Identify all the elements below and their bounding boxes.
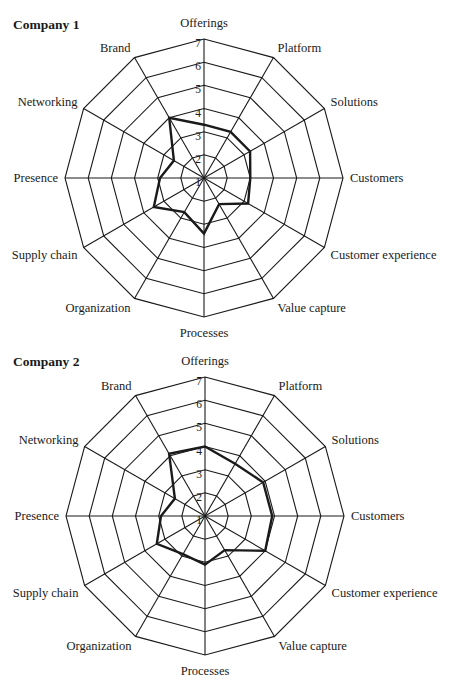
axis-spoke-organization [136,516,206,636]
data-series-polygon [157,447,272,565]
axis-spoke-value-capture [204,178,274,298]
axis-label-processes: Processes [181,664,230,678]
axis-spoke-customer-experience [204,178,324,248]
tick-label-2: 2 [196,491,202,503]
axis-label-solutions: Solutions [332,433,379,447]
tick-label-4: 4 [195,107,201,119]
axis-label-presence: Presence [14,171,59,185]
company-2-panel: Company 2 1234567OfferingsPlatformSoluti… [0,339,449,686]
axis-spoke-organization [135,178,205,298]
axis-label-processes: Processes [180,326,229,340]
axis-label-customer-experience: Customer experience [332,586,438,600]
tick-label-1: 1 [196,514,202,526]
axis-label-networking: Networking [18,95,78,109]
axis-label-value-capture: Value capture [279,639,348,653]
axis-spoke-platform [204,58,274,178]
tick-label-3: 3 [196,468,202,480]
tick-label-2: 2 [195,153,201,165]
tick-label-7: 7 [196,375,202,387]
axis-label-organization: Organization [65,301,131,315]
axis-label-brand: Brand [100,41,131,55]
axis-label-networking: Networking [19,433,79,447]
axis-label-solutions: Solutions [331,95,378,109]
axis-spoke-supply-chain [85,516,205,586]
axis-spoke-networking [84,109,204,179]
axis-spoke-networking [85,447,205,517]
tick-label-7: 7 [195,37,201,49]
axis-label-platform: Platform [278,41,322,55]
company-1-radar-chart: 1234567OfferingsPlatformSolutionsCustome… [0,0,449,340]
tick-label-3: 3 [195,130,201,142]
axis-label-organization: Organization [66,639,132,653]
tick-label-6: 6 [196,398,202,410]
axis-label-brand: Brand [101,379,132,393]
axis-label-offerings: Offerings [180,16,228,30]
axis-label-value-capture: Value capture [278,301,347,315]
axis-spoke-solutions [204,109,324,179]
axis-label-supply-chain: Supply chain [12,248,78,262]
tick-label-6: 6 [195,60,201,72]
company-2-radar-chart: 1234567OfferingsPlatformSolutionsCustome… [0,339,449,686]
company-1-panel: Company 1 1234567OfferingsPlatformSoluti… [0,0,449,340]
tick-label-1: 1 [195,176,201,188]
axis-label-customers: Customers [351,509,405,523]
axis-label-presence: Presence [15,509,60,523]
axis-label-customers: Customers [350,171,404,185]
axis-spoke-value-capture [205,516,275,636]
tick-label-4: 4 [196,445,202,457]
axis-label-platform: Platform [279,379,323,393]
axis-label-supply-chain: Supply chain [13,586,79,600]
axis-label-offerings: Offerings [181,354,229,368]
tick-label-5: 5 [195,83,201,95]
axis-spoke-platform [205,396,275,516]
axis-label-customer-experience: Customer experience [331,248,437,262]
tick-label-5: 5 [196,421,202,433]
